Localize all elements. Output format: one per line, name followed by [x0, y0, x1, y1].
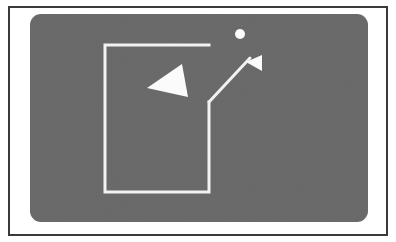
diagram-canvas [0, 0, 396, 242]
dot-marker-icon [235, 29, 245, 39]
figure-root [0, 0, 396, 242]
